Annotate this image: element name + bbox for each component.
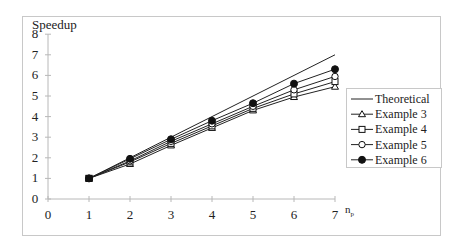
- filled-circle-marker-icon: [332, 66, 339, 73]
- x-tick-label: 7: [332, 207, 339, 222]
- series-lines: [89, 55, 335, 179]
- square-marker-icon: [359, 126, 365, 132]
- y-tick-label: 0: [32, 191, 39, 206]
- x-tick-label: 5: [250, 207, 257, 222]
- series-line: [89, 55, 335, 179]
- x-tick-label: 4: [209, 207, 216, 222]
- x-tick-label: 3: [168, 207, 175, 222]
- legend-entries: TheoreticalExample 3Example 4Example 5Ex…: [347, 89, 443, 169]
- filled-circle-marker-icon: [168, 136, 175, 143]
- x-tick-label: 1: [86, 207, 93, 222]
- x-axis-label: np: [345, 203, 355, 218]
- x-tick-label: 2: [127, 207, 134, 222]
- filled-circle-marker-icon: [359, 156, 366, 163]
- axes: 01234567801234567: [32, 26, 339, 222]
- x-tick-label: 0: [45, 207, 52, 222]
- legend: TheoreticalExample 3Example 4Example 5Ex…: [346, 88, 442, 168]
- y-tick-label: 1: [32, 170, 39, 185]
- legend-label: Example 6: [375, 153, 427, 167]
- x-tick-label: 6: [291, 207, 298, 222]
- y-tick-label: 4: [32, 109, 39, 124]
- y-tick-label: 7: [32, 47, 39, 62]
- y-axis-label: Speedup: [32, 17, 77, 32]
- legend-label: Example 3: [375, 107, 427, 121]
- filled-circle-marker-icon: [291, 80, 298, 87]
- y-tick-label: 5: [32, 88, 39, 103]
- y-tick-label: 3: [32, 129, 39, 144]
- y-tick-label: 6: [32, 67, 39, 82]
- filled-circle-marker-icon: [250, 100, 257, 107]
- legend-label: Theoretical: [375, 92, 430, 106]
- filled-circle-marker-icon: [209, 117, 216, 124]
- circle-marker-icon: [359, 141, 365, 147]
- circle-marker-icon: [332, 73, 338, 79]
- filled-circle-marker-icon: [127, 155, 134, 162]
- y-tick-label: 2: [32, 150, 39, 165]
- triangle-marker-icon: [359, 111, 366, 117]
- series-line: [89, 87, 335, 179]
- origin-point-marker-icon: [86, 175, 93, 182]
- legend-label: Example 4: [375, 122, 427, 136]
- legend-label: Example 5: [375, 138, 427, 152]
